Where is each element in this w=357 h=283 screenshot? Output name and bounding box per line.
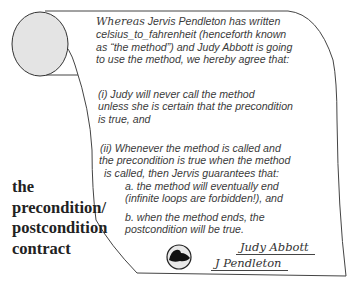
side-title: the precondition/ postcondition contract — [12, 177, 107, 259]
clause-i: (i) Judy will never call the method unle… — [98, 88, 293, 125]
scroll-roll — [12, 12, 68, 76]
whereas-lead: Whereas — [96, 15, 145, 28]
guarantee-b: b. when the method ends, the postconditi… — [125, 211, 265, 236]
signature-judy-abbott: Judy Abbott — [236, 241, 315, 255]
clause-ii: (ii) Whenever the method is called and t… — [100, 142, 290, 179]
walrus-seal-icon — [167, 245, 191, 269]
contract-intro: Whereas Jervis Pendleton has written cel… — [96, 15, 292, 66]
signature-j-pendleton: J Pendleton — [211, 257, 288, 271]
guarantee-a: a. the method will eventually end (infin… — [125, 180, 283, 205]
